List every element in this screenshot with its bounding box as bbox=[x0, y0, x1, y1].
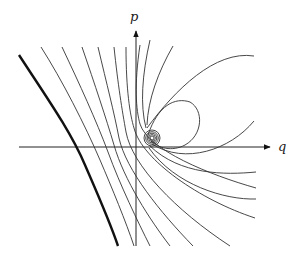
spiral-focus bbox=[144, 130, 160, 146]
phase-portrait-figure: p q bbox=[0, 0, 304, 261]
p-axis-label: p bbox=[130, 10, 138, 23]
separatrix-curve bbox=[19, 55, 118, 246]
trajectory-family-right bbox=[143, 40, 256, 199]
phase-portrait-canvas bbox=[0, 0, 304, 261]
q-axis-label: q bbox=[278, 140, 286, 153]
axes bbox=[19, 31, 270, 246]
